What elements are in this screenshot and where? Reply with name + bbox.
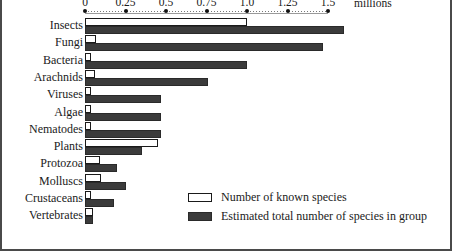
bar-estimated-total: [85, 95, 161, 103]
category-label: Crustaceans: [0, 192, 83, 205]
bar-known-species: [85, 70, 95, 78]
category-label: Vertebrates: [0, 209, 83, 222]
category-label: Nematodes: [0, 123, 83, 136]
chart-row: Protozoa: [2, 156, 452, 173]
axis-unit-label: millions: [354, 0, 392, 9]
axis-tick-label: 0.5: [159, 0, 173, 8]
axis-tick-label: 0: [82, 0, 88, 8]
chart-row: Plants: [2, 139, 452, 156]
legend-swatch-known-icon: [188, 193, 212, 202]
chart-legend: Number of known species Estimated total …: [188, 190, 450, 228]
category-label: Protozoa: [0, 157, 83, 170]
bar-estimated-total: [85, 26, 344, 34]
bar-estimated-total: [85, 113, 161, 121]
bar-estimated-total: [85, 182, 126, 190]
category-label: Plants: [0, 140, 83, 153]
chart-row: Insects: [2, 18, 452, 35]
chart-row: Molluscs: [2, 174, 452, 191]
legend-item-known: Number of known species: [188, 190, 450, 209]
legend-item-total: Estimated total number of species in gro…: [188, 209, 450, 228]
bar-known-species: [85, 174, 101, 182]
category-label: Molluscs: [0, 175, 83, 188]
chart-row: Fungi: [2, 35, 452, 52]
chart-row: Arachnids: [2, 70, 452, 87]
bar-estimated-total: [85, 130, 161, 138]
category-label: Viruses: [0, 88, 83, 101]
bar-known-species: [85, 156, 100, 164]
bar-known-species: [85, 87, 91, 95]
chart-row: Viruses: [2, 87, 452, 104]
bar-estimated-total: [85, 147, 142, 155]
axis-tick-marker: [326, 9, 330, 13]
legend-label-known: Number of known species: [221, 190, 347, 205]
bar-known-species: [85, 139, 158, 147]
axis-tick-marker: [286, 9, 290, 13]
bar-known-species: [85, 208, 93, 216]
bar-estimated-total: [85, 43, 323, 51]
category-label: Bacteria: [0, 54, 83, 67]
bar-known-species: [85, 105, 91, 113]
chart-row: Bacteria: [2, 53, 452, 70]
bar-estimated-total: [85, 164, 117, 172]
axis-tick-label: 1.0: [240, 0, 254, 8]
category-label: Algae: [0, 106, 83, 119]
axis-tick-label: 1.25: [277, 0, 297, 8]
bar-estimated-total: [85, 78, 208, 86]
legend-label-total: Estimated total number of species in gro…: [221, 209, 427, 224]
legend-swatch-total-icon: [188, 212, 212, 221]
bar-known-species: [85, 18, 247, 26]
axis-tick-label: 0.25: [115, 0, 135, 8]
axis-tick-marker: [124, 9, 128, 13]
bar-known-species: [85, 122, 91, 130]
axis-line-solid: [85, 13, 328, 14]
chart-row: Algae: [2, 105, 452, 122]
category-label: Insects: [0, 19, 83, 32]
bar-estimated-total: [85, 61, 247, 69]
category-label: Fungi: [0, 36, 83, 49]
bar-known-species: [85, 35, 96, 43]
chart-row: Nematodes: [2, 122, 452, 139]
axis-tick-marker: [164, 9, 168, 13]
axis-tick-marker: [205, 9, 209, 13]
bar-estimated-total: [85, 199, 114, 207]
bar-estimated-total: [85, 216, 93, 224]
axis-tick-marker: [83, 9, 87, 13]
x-axis: 00.250.50.751.01.251.5 millions: [2, 0, 452, 18]
chart-frame: 00.250.50.751.01.251.5 millions InsectsF…: [0, 0, 452, 251]
axis-tick-marker: [245, 9, 249, 13]
axis-tick-label: 1.5: [321, 0, 335, 8]
category-label: Arachnids: [0, 71, 83, 84]
bar-known-species: [85, 53, 91, 61]
bar-known-species: [85, 191, 91, 199]
axis-tick-label: 0.75: [196, 0, 216, 8]
